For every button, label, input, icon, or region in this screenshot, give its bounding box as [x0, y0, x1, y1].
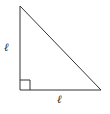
bottom-leg-label: ℓ	[57, 93, 62, 106]
right-triangle	[20, 6, 101, 90]
right-angle-marker	[20, 80, 30, 90]
left-leg-label: ℓ	[4, 41, 9, 54]
triangle-diagram: ℓ ℓ	[0, 0, 110, 114]
